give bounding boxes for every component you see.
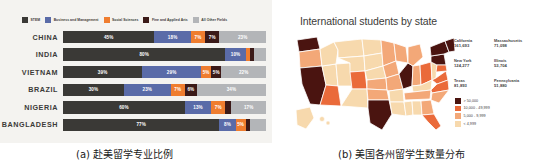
panel-a-bar-chart: STEM Business and Management Social Scie…	[0, 0, 272, 143]
bar-country-label: BRAZIL	[0, 85, 63, 94]
legend-label-social-sciences: Social Sciences	[112, 18, 138, 22]
state-new-mexico	[341, 89, 368, 108]
bar-segment: 29%	[142, 66, 201, 79]
state-florida	[422, 114, 441, 130]
bar-segment-label: 45%	[104, 35, 114, 40]
bar-row: BRAZIL30%23%7%6%34%	[0, 83, 272, 97]
bar-segment: 30%	[63, 84, 124, 97]
caption-a: (a) 赴美留学专业比例	[76, 146, 173, 161]
state-idaho	[320, 42, 338, 66]
bar-segment: 7%	[205, 31, 219, 44]
bar-country-label: CHINA	[0, 33, 63, 42]
map-legend: > 50,000 10,000 - 49,999 5,000 - 9,999 <…	[455, 98, 490, 127]
bar-segment-label: 7%	[174, 87, 181, 92]
map-legend-swatch-under-4999	[455, 121, 461, 127]
bar-country-label: BANGLADESH	[0, 120, 63, 129]
bar-segment-label: 7%	[195, 35, 202, 40]
bar-segment: 77%	[63, 119, 219, 132]
state-louisiana	[390, 102, 406, 116]
map-legend-label-5000-9999: 5,000 - 9,999	[464, 114, 486, 118]
bar-track: 60%13%7%17%	[63, 101, 266, 114]
bar-segment-label: 23%	[142, 87, 152, 92]
legend-item-stem: STEM	[22, 17, 40, 23]
legend-item-business: Business and Management	[45, 17, 98, 23]
bar-segment-label: 10%	[231, 52, 241, 57]
bar-segment: 10%	[225, 48, 245, 61]
stat-texas: Texas 81,893	[454, 78, 494, 89]
bar-segment-label: 5%	[203, 70, 210, 75]
bar-track: 45%18%7%7%23%	[63, 31, 266, 44]
stat-value-texas: 81,893	[454, 83, 494, 89]
bar-segment-label: 6%	[187, 87, 194, 92]
bar-segment: 39%	[63, 66, 142, 79]
legend-label-business: Business and Management	[54, 18, 99, 22]
bar-segment-label: 18%	[168, 35, 178, 40]
stat-value-illinois: 53,704	[494, 63, 534, 69]
bar-row: VIETNAM39%29%5%5%22%	[0, 65, 272, 79]
bar-segment: 45%	[63, 31, 154, 44]
bar-segment-label: 5%	[237, 122, 244, 127]
bar-country-label: INDIA	[0, 50, 63, 59]
state-wisconsin	[394, 43, 408, 63]
bar-segment-label: 77%	[136, 122, 146, 127]
legend-label-fine-arts: Fine and Applied Arts	[152, 18, 188, 22]
state-hawaii-2	[326, 121, 330, 125]
legend-item-other-fields: All Other Fields	[193, 17, 227, 23]
state-hawaii	[320, 117, 325, 122]
bar-row: INDIA80%10%	[0, 48, 272, 62]
stat-pennsylvania: Pennsylvania 51,880	[494, 78, 534, 89]
state-oklahoma	[367, 89, 389, 100]
us-choropleth-map	[286, 30, 456, 135]
stat-value-pennsylvania: 51,880	[494, 83, 534, 89]
bar-track: 39%29%5%5%22%	[63, 66, 266, 79]
bar-segment: 17%	[231, 101, 266, 114]
bar-segment-label: 7%	[209, 35, 216, 40]
bar-segment	[250, 119, 266, 132]
bar-segment: 7%	[211, 101, 225, 114]
legend-item-social-sciences: Social Sciences	[104, 17, 139, 23]
bar-segment-label: 60%	[119, 105, 129, 110]
stat-value-california: 161,693	[454, 43, 494, 49]
state-michigan	[408, 44, 423, 66]
state-maryland-delaware	[436, 65, 447, 72]
bar-segment: 80%	[63, 48, 225, 61]
bar-segment-label: 13%	[193, 105, 203, 110]
map-legend-item-over-50000: > 50,000	[455, 98, 490, 104]
state-kansas	[367, 78, 387, 90]
bar-row: BANGLADESH77%8%5%	[0, 118, 272, 132]
bar-segment-label: 30%	[89, 87, 99, 92]
bar-rows-container: CHINA45%18%7%7%23%INDIA80%10%VIETNAM39%2…	[0, 30, 272, 138]
stat-california: California 161,693	[454, 38, 494, 49]
map-legend-item-under-4999: < 4,999	[455, 121, 490, 127]
bar-segment: 18%	[154, 31, 191, 44]
state-montana	[334, 39, 364, 58]
bar-segment	[254, 48, 266, 61]
stat-value-massachusetts: 71,098	[494, 43, 534, 49]
bar-segment-label: 22%	[239, 70, 249, 75]
bar-segment-label: 34%	[227, 87, 237, 92]
state-alabama	[412, 101, 422, 115]
bar-segment: 7%	[171, 84, 185, 97]
legend-swatch-social-sciences	[104, 17, 110, 23]
bar-chart-legend: STEM Business and Management Social Scie…	[22, 15, 267, 25]
state-indiana	[412, 65, 421, 86]
state-oregon	[299, 49, 322, 68]
map-legend-item-5000-9999: 5,000 - 9,999	[455, 113, 490, 119]
state-arkansas	[389, 89, 404, 102]
bar-segment: 5%	[211, 66, 221, 79]
stat-illinois: Illinois 53,704	[494, 58, 534, 69]
state-colorado	[350, 71, 367, 89]
bar-row: CHINA45%18%7%7%23%	[0, 30, 272, 44]
bar-country-label: NIGERIA	[0, 103, 63, 112]
bar-track: 80%10%	[63, 48, 266, 61]
bar-segment-label: 5%	[213, 70, 220, 75]
legend-swatch-business	[45, 17, 51, 23]
bar-track: 30%23%7%6%34%	[63, 84, 266, 97]
bar-segment: 5%	[201, 66, 211, 79]
bar-segment: 6%	[185, 84, 197, 97]
bar-segment: 34%	[197, 84, 266, 97]
stat-value-new-york: 124,277	[454, 63, 494, 69]
state-mississippi	[404, 101, 413, 116]
bar-segment: 7%	[191, 31, 205, 44]
bar-segment: 23%	[124, 84, 171, 97]
